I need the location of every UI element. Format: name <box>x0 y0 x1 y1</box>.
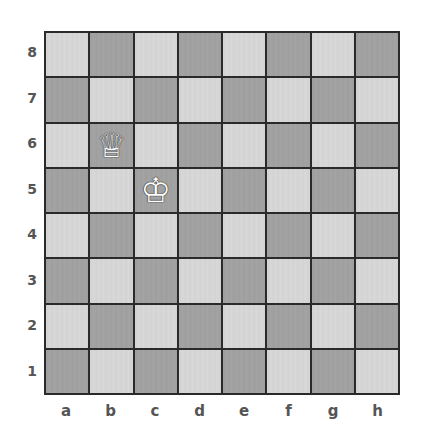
rank-label-4: 4 <box>22 226 42 242</box>
file-label-a: a <box>44 402 88 420</box>
square-b3[interactable] <box>89 258 133 303</box>
rank-label-8: 8 <box>22 44 42 60</box>
square-c3[interactable] <box>134 258 178 303</box>
square-g3[interactable] <box>311 258 355 303</box>
square-a8[interactable] <box>45 32 89 77</box>
white-king-icon[interactable]: ♔ <box>140 173 170 207</box>
square-d6[interactable] <box>178 123 222 168</box>
square-b8[interactable] <box>89 32 133 77</box>
square-f1[interactable] <box>266 349 310 394</box>
square-b2[interactable] <box>89 304 133 349</box>
square-b6[interactable]: ♕ <box>89 123 133 168</box>
square-e7[interactable] <box>222 77 266 122</box>
square-a7[interactable] <box>45 77 89 122</box>
square-h2[interactable] <box>355 304 399 349</box>
square-g4[interactable] <box>311 213 355 258</box>
square-e5[interactable] <box>222 168 266 213</box>
square-h4[interactable] <box>355 213 399 258</box>
square-b1[interactable] <box>89 349 133 394</box>
chess-board: ♕♔ <box>44 31 400 395</box>
square-h3[interactable] <box>355 258 399 303</box>
square-e1[interactable] <box>222 349 266 394</box>
square-a6[interactable] <box>45 123 89 168</box>
square-f6[interactable] <box>266 123 310 168</box>
square-f2[interactable] <box>266 304 310 349</box>
square-g6[interactable] <box>311 123 355 168</box>
square-h8[interactable] <box>355 32 399 77</box>
square-a1[interactable] <box>45 349 89 394</box>
square-e8[interactable] <box>222 32 266 77</box>
square-g2[interactable] <box>311 304 355 349</box>
square-d2[interactable] <box>178 304 222 349</box>
white-queen-icon[interactable]: ♕ <box>96 128 126 162</box>
square-a4[interactable] <box>45 213 89 258</box>
square-d1[interactable] <box>178 349 222 394</box>
rank-label-2: 2 <box>22 317 42 333</box>
square-d5[interactable] <box>178 168 222 213</box>
square-g5[interactable] <box>311 168 355 213</box>
square-c2[interactable] <box>134 304 178 349</box>
square-b7[interactable] <box>89 77 133 122</box>
file-label-d: d <box>178 402 222 420</box>
square-f4[interactable] <box>266 213 310 258</box>
file-label-h: h <box>356 402 400 420</box>
square-a2[interactable] <box>45 304 89 349</box>
rank-label-6: 6 <box>22 135 42 151</box>
square-a3[interactable] <box>45 258 89 303</box>
square-b4[interactable] <box>89 213 133 258</box>
square-c1[interactable] <box>134 349 178 394</box>
square-c5[interactable]: ♔ <box>134 168 178 213</box>
square-d8[interactable] <box>178 32 222 77</box>
file-label-e: e <box>222 402 266 420</box>
file-label-f: f <box>267 402 311 420</box>
square-f8[interactable] <box>266 32 310 77</box>
square-e3[interactable] <box>222 258 266 303</box>
square-h5[interactable] <box>355 168 399 213</box>
square-d4[interactable] <box>178 213 222 258</box>
file-label-b: b <box>89 402 133 420</box>
square-g7[interactable] <box>311 77 355 122</box>
square-f3[interactable] <box>266 258 310 303</box>
square-h1[interactable] <box>355 349 399 394</box>
square-b5[interactable] <box>89 168 133 213</box>
square-e4[interactable] <box>222 213 266 258</box>
rank-label-1: 1 <box>22 363 42 379</box>
square-c7[interactable] <box>134 77 178 122</box>
file-label-c: c <box>133 402 177 420</box>
square-g1[interactable] <box>311 349 355 394</box>
square-h7[interactable] <box>355 77 399 122</box>
rank-label-3: 3 <box>22 272 42 288</box>
square-e6[interactable] <box>222 123 266 168</box>
square-d3[interactable] <box>178 258 222 303</box>
square-h6[interactable] <box>355 123 399 168</box>
file-label-g: g <box>311 402 355 420</box>
square-c6[interactable] <box>134 123 178 168</box>
square-a5[interactable] <box>45 168 89 213</box>
square-e2[interactable] <box>222 304 266 349</box>
square-f5[interactable] <box>266 168 310 213</box>
square-f7[interactable] <box>266 77 310 122</box>
rank-label-5: 5 <box>22 181 42 197</box>
rank-label-7: 7 <box>22 90 42 106</box>
square-c8[interactable] <box>134 32 178 77</box>
square-g8[interactable] <box>311 32 355 77</box>
square-d7[interactable] <box>178 77 222 122</box>
square-c4[interactable] <box>134 213 178 258</box>
